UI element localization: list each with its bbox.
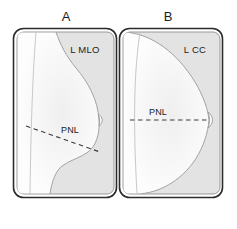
panel-b-pnl-label: PNL	[149, 107, 167, 117]
mammography-pnl-figure: A L MLO PNL B L CC PNL	[0, 0, 237, 229]
panel-a-letter: A	[62, 9, 71, 24]
panel-b-letter: B	[164, 9, 173, 24]
panel-a-pnl-label: PNL	[61, 125, 79, 135]
panel-a-view-label: L MLO	[70, 44, 100, 55]
figure-canvas: A L MLO PNL B L CC PNL	[0, 0, 237, 229]
panel-b-view-label: L CC	[184, 44, 207, 55]
panel-a: A L MLO PNL	[14, 9, 117, 198]
panel-b: B L CC PNL	[120, 9, 223, 198]
